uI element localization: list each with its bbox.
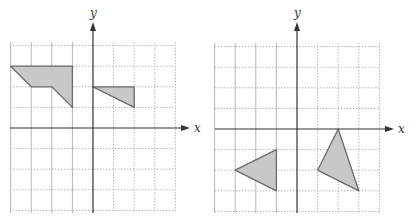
left-coordinate-grid: xy xyxy=(10,6,201,213)
x-axis-arrow-icon xyxy=(181,125,190,131)
triangle-shape xyxy=(93,87,134,108)
y-axis-arrow-icon xyxy=(294,22,300,31)
y-axis-arrow-icon xyxy=(90,22,96,31)
x-axis-label: x xyxy=(194,121,201,135)
y-axis-label: y xyxy=(293,6,301,20)
y-axis-label: y xyxy=(89,6,97,20)
x-axis-label: x xyxy=(398,122,405,136)
x-axis-arrow-icon xyxy=(385,126,394,132)
diagram-canvas: xy xy xyxy=(0,0,416,223)
right-coordinate-grid: xy xyxy=(215,6,405,213)
